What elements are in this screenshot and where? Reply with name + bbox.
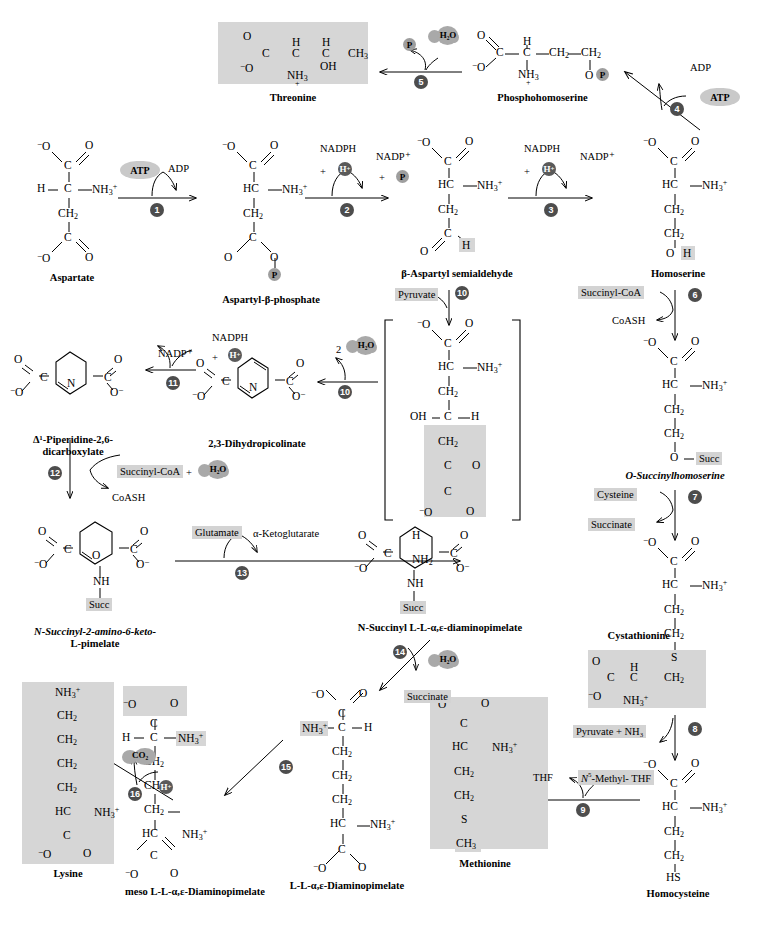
water-badge-step10: H₂O (346, 336, 376, 358)
cofactor-glutamate-step13: Glutamate (192, 526, 242, 539)
co2-badge-step16: CO₂ (122, 748, 156, 765)
compound-label-threonine: Threonine (238, 92, 348, 104)
step-badge-13[interactable]: 13 (235, 566, 249, 580)
cofactor-alpha-ketoglutarate-step13: α-Ketoglutarate (253, 528, 319, 539)
cofactor-cysteine-step7: Cysteine (594, 488, 637, 501)
step-badge-11[interactable]: 11 (166, 376, 180, 390)
succ-group-ll-dap: Succ (400, 601, 426, 614)
phosphate-badge-aspartyl: P (268, 268, 281, 281)
cofactor-nadp-step2: NADP⁺ (376, 150, 411, 162)
step-badge-6[interactable]: 6 (688, 288, 702, 302)
compound-label-cystathionine: Cystathionine (560, 630, 670, 642)
plus-sign-step11: + (212, 352, 218, 363)
step-badge-1[interactable]: 1 (150, 203, 164, 217)
cofactor-succinate-step7: Succinate (588, 518, 635, 531)
succ-group-keto-pimelate: Succ (86, 598, 112, 611)
step-badge-12[interactable]: 12 (48, 466, 62, 480)
water-badge-step14: H₂O (428, 650, 458, 672)
water-badge-step5: H₂O (428, 26, 458, 48)
compound-label-meso-dap: meso L-L-α,ε-Diaminopimelate (95, 886, 295, 898)
compound-label-piperidine-line1: Δ¹-Piperidine-2,6- dicarboxylate (8, 434, 138, 458)
plus-sign2-step2: + (379, 172, 385, 183)
water-count-step10: 2 (336, 344, 341, 355)
compound-label-aspartate: Aspartate (22, 272, 122, 284)
proton-badge-step11: H+ (228, 348, 242, 362)
plus-sign-step2: + (320, 166, 326, 177)
compound-label-phosphohomoserine: Phosphohomoserine (470, 92, 615, 104)
meso-prefix: meso L-L-α,ε-Diaminopimelate (125, 886, 265, 897)
compound-label-n-succinyl-keto: N-Succinyl-2-amino-6-keto- L-pimelate (5, 626, 185, 650)
pathway-diagram: O −O C H C NH3 + H C OH CH3 Threonine P … (0, 0, 758, 925)
cofactor-atp-step1: ATP (120, 161, 160, 179)
cofactor-pyruvate-nh3-step8: Pyruvate + NH₃ (573, 725, 646, 738)
cofactor-succinate-step14: Succinate (404, 690, 451, 703)
cofactor-nadp-step3: NADP⁺ (580, 150, 615, 162)
cofactor-adp-step1: ADP (168, 163, 189, 174)
nsucc-keto-text-1: N-Succinyl-2-amino-6-keto- (34, 626, 156, 637)
cofactor-nadph-step2: NADPH (320, 143, 356, 154)
nsucc-keto-text-2: L-pimelate (71, 638, 120, 649)
cofactor-nadph-step11: NADPH (212, 332, 248, 343)
cofactor-adp-step4: ADP (690, 62, 711, 73)
cofactor-atp-step4: ATP (700, 88, 740, 106)
phosphate-badge-step2: P (396, 170, 409, 183)
piperidine-text-1: Δ¹-Piperidine-2,6- (33, 434, 113, 445)
step-badge-7[interactable]: 7 (688, 490, 702, 504)
step-badge-15[interactable]: 15 (279, 760, 293, 774)
step-badge-16[interactable]: 16 (128, 787, 142, 801)
step-badge-9[interactable]: 9 (576, 803, 590, 817)
cofactor-coash-step12: CoASH (112, 492, 145, 503)
phosphate-badge-phosphohomoserine: P (596, 68, 609, 81)
succ-group-o-succinylhomoserine: Succ (696, 452, 722, 465)
proton-badge-step3: H+ (542, 162, 556, 176)
cofactor-succinyl-coa-step6: Succinyl-CoA (578, 286, 644, 299)
step-badge-10a[interactable]: 10 (455, 286, 469, 300)
proton-badge-step16: H+ (159, 780, 173, 794)
proton-badge-step2: H+ (338, 162, 352, 176)
compound-label-homoserine: Homoserine (628, 268, 728, 280)
cofactor-succinyl-coa-step12: Succinyl-CoA (117, 465, 183, 478)
step-badge-3[interactable]: 3 (544, 203, 558, 217)
compound-label-aspartyl-beta-phosphate: Aspartyl-β-phosphate (196, 294, 346, 306)
plus-sign-step3: + (524, 166, 530, 177)
phosphate-badge-step5: P (403, 38, 416, 51)
plus-sign-step12: + (186, 467, 192, 478)
compound-label-homocysteine: Homocysteine (628, 888, 728, 900)
compound-label-dihydropicolinate: 2,3-Dihydropicolinate (192, 438, 322, 450)
cofactor-nadph-step3: NADPH (524, 143, 560, 154)
compound-label-n-succinyl-dap: N-Succinyl L-L-α,ε-diaminopimelate (330, 622, 550, 634)
compound-label-beta-aspartyl-semialdehyde: β-Aspartyl semialdehyde (382, 268, 532, 280)
step-badge-2[interactable]: 2 (340, 203, 354, 217)
cofactor-n5-methyl-thf-step9: N5-Methyl- THF (578, 770, 654, 785)
step-badge-8[interactable]: 8 (688, 722, 702, 736)
step-badge-10b[interactable]: 10 (338, 385, 352, 399)
cofactor-coash-step6: CoASH (612, 315, 645, 326)
cofactor-thf-step9: THF (533, 772, 553, 783)
water-badge-step12: H₂O (198, 460, 228, 482)
cofactor-pyruvate-step10: Pyruvate (395, 288, 438, 301)
methionine-highlight (430, 697, 548, 849)
step-badge-4[interactable]: 4 (670, 102, 684, 116)
piperidine-text-2: dicarboxylate (42, 446, 103, 457)
compound-label-methionine: Methionine (430, 858, 540, 870)
compound-label-lysine: Lysine (22, 868, 114, 880)
step-badge-14[interactable]: 14 (393, 645, 407, 659)
compound-label-o-succinylhomoserine: O-Succinylhomoserine (600, 470, 750, 482)
cofactor-nadp-step11: NADP⁺ (158, 347, 193, 359)
step-badge-5[interactable]: 5 (414, 75, 428, 89)
